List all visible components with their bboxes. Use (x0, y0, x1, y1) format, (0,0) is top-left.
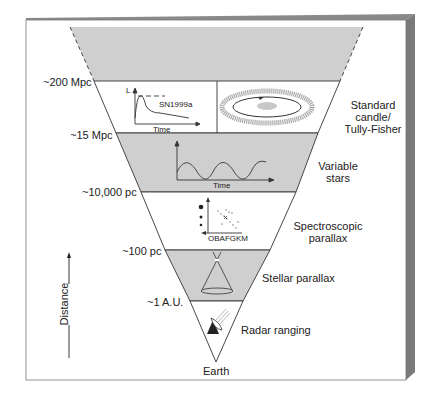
method-spectroscopic-parallax: Spectroscopic parallax (283, 220, 373, 244)
marker-15-mpc: ~15 Mpc (70, 129, 113, 141)
method-label-line: Tully-Fisher (333, 123, 413, 135)
marker-1-au: ~1 A.U. (147, 296, 183, 308)
distance-ladder-diagram: ~200 Mpc ~15 Mpc ~10,000 pc ~100 pc ~1 A… (0, 0, 434, 393)
variable-x-axis-label: Time (213, 181, 230, 190)
marker-100-pc: ~100 pc (122, 245, 161, 257)
marker-10000-pc: ~10,000 pc (82, 186, 137, 198)
sn-label: SN1999a (159, 100, 192, 109)
method-label-line: Variable (308, 160, 368, 172)
band-extragalactic (70, 27, 363, 81)
method-variable-stars: Variable stars (308, 160, 368, 184)
method-label-line: parallax (283, 232, 373, 244)
diagram-canvas (0, 0, 434, 393)
sn-x-axis-label: Time (153, 125, 170, 134)
method-label-line: Spectroscopic (283, 220, 373, 232)
marker-200-mpc: ~200 Mpc (43, 76, 92, 88)
method-stellar-parallax: Stellar parallax (262, 272, 335, 284)
method-label-line: Standard (333, 99, 413, 111)
earth-label: Earth (203, 365, 229, 377)
panel-side-edge (406, 14, 415, 380)
sn-y-axis-label: L (126, 86, 130, 95)
panel-top-edge (26, 14, 415, 20)
method-radar-ranging: Radar ranging (241, 324, 311, 336)
method-label-line: candle/ (333, 111, 413, 123)
method-label-line: stars (308, 172, 368, 184)
method-standard-candle: Standard candle/ Tully-Fisher (333, 99, 413, 135)
distance-axis-label: Distance (58, 283, 70, 326)
hr-x-axis-label: OBAFGKM (208, 234, 248, 243)
